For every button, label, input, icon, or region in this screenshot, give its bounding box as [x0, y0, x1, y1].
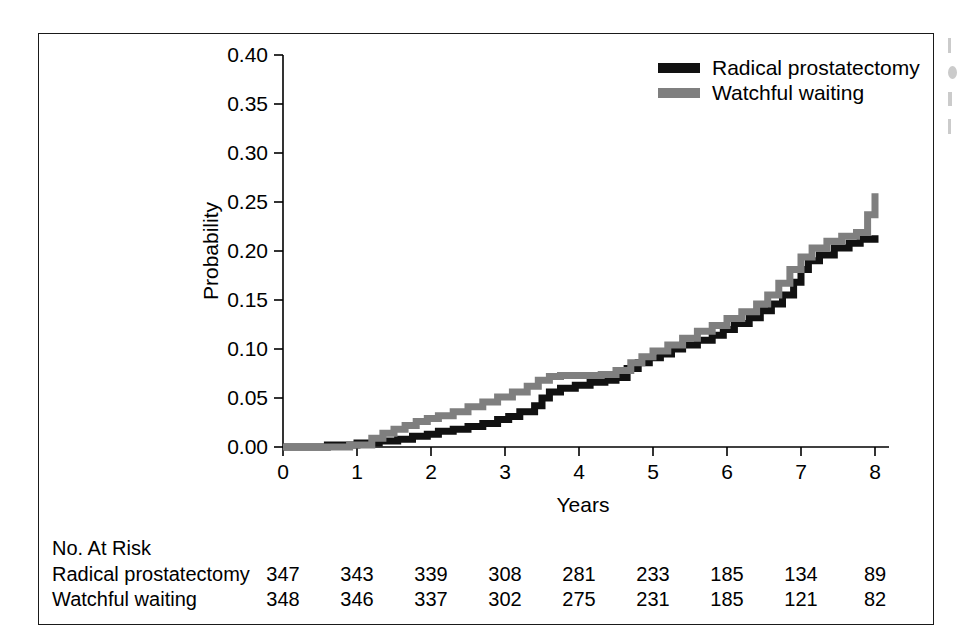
y-tick-label: 0.10 [227, 337, 268, 360]
x-tick-label: 0 [277, 460, 289, 483]
risk-value: 308 [478, 562, 532, 587]
x-tick-label: 2 [425, 460, 437, 483]
y-tick-label: 0.25 [227, 190, 268, 213]
legend-swatch [658, 88, 700, 98]
risk-value: 185 [700, 587, 754, 612]
x-tick-label: 4 [573, 460, 585, 483]
risk-row-label: Watchful waiting [52, 587, 197, 612]
x-tick-label: 6 [721, 460, 733, 483]
risk-row-label: Radical prostatectomy [52, 562, 250, 587]
x-tick-label: 8 [869, 460, 881, 483]
figure-root: 0.000.050.100.150.200.250.300.350.40 012… [0, 0, 970, 643]
risk-value: 347 [256, 562, 310, 587]
risk-table-rows: Radical prostatectomy3473433393082812331… [52, 562, 924, 612]
x-axis: 012345678 [277, 447, 889, 483]
series-layer [283, 193, 875, 447]
y-axis: 0.000.050.100.150.200.250.300.350.40 [227, 43, 283, 458]
risk-value: 275 [552, 587, 606, 612]
risk-value: 231 [626, 587, 680, 612]
series-line-watchful-waiting [283, 193, 875, 447]
risk-value: 337 [404, 587, 458, 612]
x-tick-label: 3 [499, 460, 511, 483]
y-axis-title: Probability [199, 201, 222, 300]
x-tick-label: 7 [795, 460, 807, 483]
risk-value: 121 [774, 587, 828, 612]
y-tick-label: 0.35 [227, 92, 268, 115]
risk-value: 233 [626, 562, 680, 587]
risk-value: 343 [330, 562, 384, 587]
y-tick-label: 0.40 [227, 43, 268, 66]
legend-swatch [658, 63, 700, 73]
y-tick-label: 0.00 [227, 435, 268, 458]
x-tick-label: 5 [647, 460, 659, 483]
risk-table-row: Watchful waiting348346337302275231185121… [52, 587, 924, 612]
risk-value: 134 [774, 562, 828, 587]
risk-value: 348 [256, 587, 310, 612]
risk-value: 281 [552, 562, 606, 587]
number-at-risk-table: No. At Risk Radical prostatectomy3473433… [52, 536, 924, 612]
y-tick-label: 0.30 [227, 141, 268, 164]
risk-value: 346 [330, 587, 384, 612]
series-line-radical-prostatectomy [283, 235, 875, 447]
risk-value: 185 [700, 562, 754, 587]
y-tick-label: 0.15 [227, 288, 268, 311]
y-tick-label: 0.05 [227, 386, 268, 409]
x-tick-label: 1 [351, 460, 363, 483]
chart-legend: Radical prostatectomyWatchful waiting [658, 56, 920, 104]
y-tick-label: 0.20 [227, 239, 268, 262]
risk-table-title: No. At Risk [52, 536, 924, 561]
risk-table-row: Radical prostatectomy3473433393082812331… [52, 562, 924, 587]
legend-label: Radical prostatectomy [712, 56, 920, 79]
legend-label: Watchful waiting [712, 81, 864, 104]
x-axis-title: Years [557, 493, 610, 516]
risk-value: 89 [848, 562, 902, 587]
risk-value: 302 [478, 587, 532, 612]
risk-value: 82 [848, 587, 902, 612]
risk-value: 339 [404, 562, 458, 587]
